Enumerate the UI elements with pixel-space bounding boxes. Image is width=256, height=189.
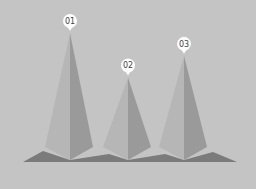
category-label: 02 (123, 61, 133, 70)
category-label: 01 (65, 17, 75, 26)
category-label: 03 (179, 40, 189, 49)
pyramid-infographic: 010203 (0, 0, 256, 189)
pyramid-chart: 010203 (0, 0, 256, 189)
